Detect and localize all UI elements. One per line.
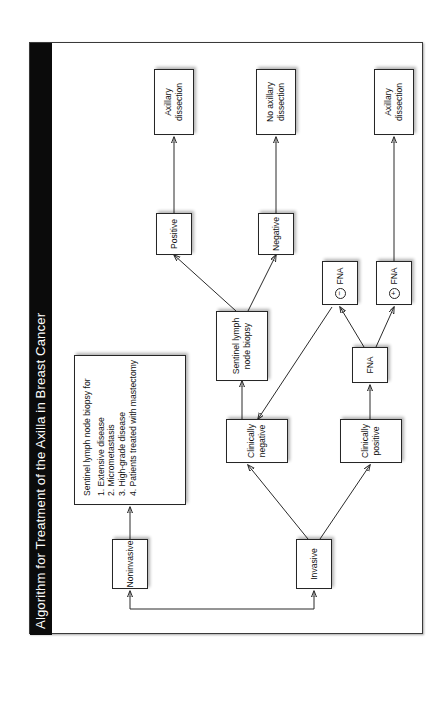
node-fna-negative[interactable]: − FNA [322,261,358,305]
node-fna-positive-label: FNA [389,267,400,284]
node-fna-negative-label: FNA [335,267,346,284]
slnb-criteria-item-4: 4. Patients treated with mastectomy [128,360,139,496]
diagram-canvas: Noninvasive Invasive Sentinel lymph node… [52,43,424,635]
page-title: Algorithm for Treatment of the Axilla in… [30,43,52,635]
node-no-axillary-dissection-label: No axillary dissection [265,73,286,131]
diagram-rotated-layer: Noninvasive Invasive Sentinel lymph node… [52,43,424,635]
figure-frame: Algorithm for Treatment of the Axilla in… [29,42,423,634]
node-axillary-dissection-sln[interactable]: Axillary dissection [154,69,194,135]
node-sln-negative[interactable]: Negative [258,213,294,255]
node-sln-positive[interactable]: Positive [156,213,192,255]
edge-fna-to-fnaneg [340,307,364,347]
slnb-criteria-item-2: 2. Micrometastasis [106,424,117,496]
node-slnb-criteria[interactable]: Sentinel lymph node biopsy for 1. Extens… [74,355,186,505]
edge-fnaneg-to-clinneg [258,307,332,419]
node-sln-positive-label: Positive [169,219,180,249]
node-axillary-dissection-fna-label: Axillary dissection [383,73,404,131]
edge-slnb-to-positive [174,255,236,311]
node-clinically-negative[interactable]: Clinically negative [226,419,288,463]
node-noninvasive-label: Noninvasive [125,541,136,588]
node-invasive[interactable]: Invasive [296,539,332,589]
node-fna-positive[interactable]: + FNA [376,261,412,305]
node-noninvasive[interactable]: Noninvasive [112,539,148,589]
node-axillary-dissection-fna[interactable]: Axillary dissection [374,69,414,135]
node-sentinel-lymph-node-biopsy[interactable]: Sentinel lymph node biopsy [216,311,268,381]
node-sln-negative-label: Negative [271,217,282,251]
slnb-criteria-item-3: 3. High-grade disease [117,412,128,496]
edge-slnb-to-negative [248,255,276,311]
plus-sign-icon: + [389,288,400,299]
slnb-criteria-heading: Sentinel lymph node biopsy for [82,378,93,496]
minus-sign-icon: − [335,288,346,299]
slnb-criteria-item-1: 1. Extensive disease [96,417,107,496]
node-no-axillary-dissection[interactable]: No axillary dissection [256,69,296,135]
node-clinically-negative-label: Clinically negative [246,423,267,459]
edge-invasive-to-clinpos [320,465,370,539]
node-fna-label: FNA [365,356,376,373]
node-invasive-label: Invasive [309,548,320,580]
node-axillary-dissection-sln-label: Axillary dissection [163,73,184,131]
node-clinically-positive[interactable]: Clinically positive [340,419,402,463]
edge-fna-to-fnapos [376,307,394,347]
node-slnb-label: Sentinel lymph node biopsy [231,315,252,377]
figure-title-bar: Algorithm for Treatment of the Axilla in… [30,43,52,635]
node-fna[interactable]: FNA [352,347,388,383]
edge-invasive-to-clinneg [248,465,308,539]
node-clinically-positive-label: Clinically positive [360,423,381,459]
